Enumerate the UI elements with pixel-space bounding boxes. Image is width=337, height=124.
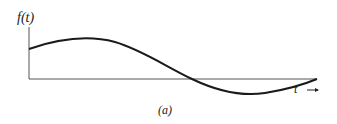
figure-caption: (a) xyxy=(158,103,172,118)
curve xyxy=(29,38,317,94)
x-axis-label: t xyxy=(294,82,297,97)
arrow-icon xyxy=(315,88,319,92)
figure: f(t) t (a) xyxy=(0,0,337,124)
y-axis-label: f(t) xyxy=(17,10,34,26)
